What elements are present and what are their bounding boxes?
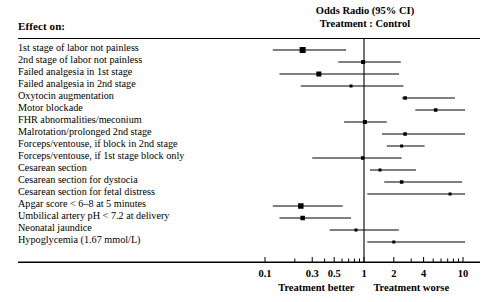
forest-row xyxy=(384,180,462,184)
effect-label-column: 1st stage of labor not painless2nd stage… xyxy=(18,42,243,246)
effect-label: FHR abnormalities/meconium xyxy=(18,114,243,126)
effect-label: Cesarean section for fetal distress xyxy=(18,186,243,198)
odds-ratio-marker xyxy=(403,132,407,136)
effect-label: Umbilical artery pH < 7.2 at delivery xyxy=(18,210,243,222)
forest-row xyxy=(273,203,343,209)
axis-tick-label: 4 xyxy=(421,268,426,279)
rule-top xyxy=(18,38,480,39)
forest-row xyxy=(382,132,465,136)
effect-label: Apgar score < 6–8 at 5 minutes xyxy=(18,198,243,210)
rule-bottom xyxy=(18,262,480,263)
forest-row xyxy=(344,120,387,124)
effect-label: Cesarean section xyxy=(18,162,243,174)
axis-tick-label: 0.1 xyxy=(258,268,271,279)
effect-label: Cesarean section for dystocia xyxy=(18,174,243,186)
effect-label: 1st stage of labor not painless xyxy=(18,42,243,54)
forest-row xyxy=(312,156,401,160)
odds-ratio-header-line1: Odds Radio (95% CI) xyxy=(240,5,490,18)
effect-label: Motor blockade xyxy=(18,102,243,114)
axis-caption-left: Treatment better xyxy=(278,282,354,293)
axis-tick-label: 10 xyxy=(458,268,469,279)
odds-ratio-marker xyxy=(400,145,403,148)
effect-label: Failed analgesia in 2nd stage xyxy=(18,78,243,90)
odds-ratio-marker xyxy=(361,156,365,160)
axis-caption-right: Treatment worse xyxy=(373,282,449,293)
odds-ratio-marker xyxy=(298,203,304,209)
forest-row xyxy=(415,108,465,112)
forest-row xyxy=(330,229,399,232)
odds-ratio-marker xyxy=(354,229,357,232)
forest-row xyxy=(367,241,465,244)
forest-row xyxy=(402,96,455,100)
odds-ratio-marker xyxy=(316,72,321,77)
odds-ratio-marker xyxy=(361,60,365,64)
effect-label: Oxytocin augmentation xyxy=(18,90,243,102)
axis-tick-label: 0.3 xyxy=(306,268,319,279)
effect-label: Malrotation/prolonged 2nd stage xyxy=(18,126,243,138)
forest-plot-figure: Effect on: Odds Radio (95% CI) Treatment… xyxy=(0,0,495,302)
forest-row xyxy=(279,216,351,221)
odds-ratio-marker xyxy=(300,216,305,221)
forest-row xyxy=(338,60,400,64)
odds-ratio-marker xyxy=(378,169,381,172)
effect-label: Hypoglycemia (1.67 mmol/L) xyxy=(18,234,243,246)
forest-row xyxy=(273,47,346,53)
effect-label: Forceps/ventouse, if block in 2nd stage xyxy=(18,138,243,150)
odds-ratio-marker xyxy=(350,85,353,88)
axis-tick-label: 2 xyxy=(391,268,396,279)
forest-row xyxy=(279,72,399,77)
effect-label: 2nd stage of labor not painless xyxy=(18,54,243,66)
effect-on-header: Effect on: xyxy=(18,20,65,32)
odds-ratio-marker xyxy=(449,193,452,196)
odds-ratio-header-line2: Treatment : Control xyxy=(240,18,490,31)
odds-ratio-marker xyxy=(300,47,306,53)
effect-label: Failed analgesia in 1st stage xyxy=(18,66,243,78)
odds-ratio-marker xyxy=(363,120,367,124)
odds-ratio-header: Odds Radio (95% CI) Treatment : Control xyxy=(240,5,490,30)
effect-label: Forceps/ventouse, if 1st stage block onl… xyxy=(18,150,243,162)
odds-ratio-marker xyxy=(434,108,438,112)
odds-ratio-marker xyxy=(403,96,407,100)
forest-row xyxy=(367,193,465,196)
odds-ratio-marker xyxy=(392,241,395,244)
forest-row xyxy=(301,85,404,88)
axis-tick-label: 1 xyxy=(361,268,366,279)
effect-label: Neonatal jaundice xyxy=(18,222,243,234)
axis-tick-label: 0.5 xyxy=(328,268,341,279)
forest-row xyxy=(387,145,425,148)
odds-ratio-marker xyxy=(400,180,404,184)
forest-row xyxy=(370,169,416,172)
